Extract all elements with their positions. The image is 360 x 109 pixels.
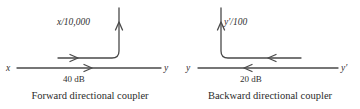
backward-coupler-panel: y y′ y′/100 20 dB Backward directional c… — [180, 0, 360, 109]
forward-caption: Forward directional coupler — [0, 91, 180, 102]
backward-output-label: y — [186, 64, 190, 74]
forward-branch-label: x/10,000 — [57, 18, 90, 28]
coupled-branch-line — [58, 8, 119, 58]
forward-coupler-panel: x y x/10,000 40 dB Forward directional c… — [0, 0, 180, 109]
forward-input-label: x — [6, 64, 10, 74]
backward-input-label: y′ — [341, 64, 347, 74]
directional-coupler-figure: x y x/10,000 40 dB Forward directional c… — [0, 0, 360, 109]
forward-coupling-label: 40 dB — [63, 75, 85, 84]
backward-caption: Backward directional coupler — [180, 91, 360, 102]
backward-coupling-label: 20 dB — [240, 75, 262, 84]
backward-branch-label: y′/100 — [224, 18, 247, 28]
forward-output-label: y — [164, 64, 168, 74]
coupled-branch-line — [221, 8, 301, 58]
